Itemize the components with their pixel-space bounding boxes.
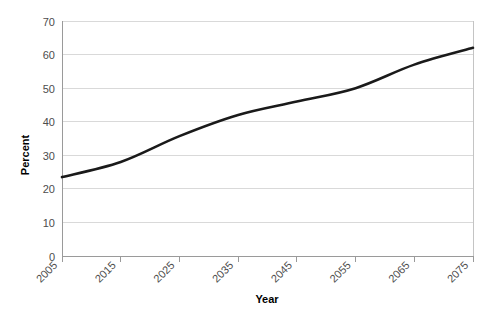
y-tick-label-30: 30: [43, 150, 55, 162]
y-axis-title: Percent: [19, 134, 31, 175]
y-tick-label-40: 40: [43, 116, 55, 128]
y-tick-label-50: 50: [43, 83, 55, 95]
line-chart-figure: 70 60 50 40 30 20 10 0 2005 2015 2025 20…: [0, 0, 504, 315]
chart-background: [0, 0, 504, 315]
y-tick-label-60: 60: [43, 49, 55, 61]
chart-canvas: 70 60 50 40 30 20 10 0 2005 2015 2025 20…: [0, 0, 504, 315]
y-tick-label-10: 10: [43, 217, 55, 229]
x-axis-title: Year: [255, 293, 279, 305]
y-tick-label-20: 20: [43, 183, 55, 195]
y-tick-label-70: 70: [43, 16, 55, 28]
